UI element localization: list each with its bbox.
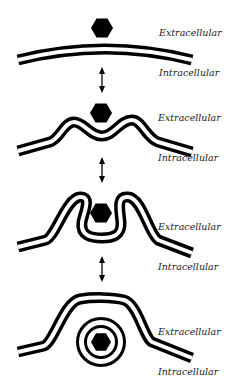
stage-4: Extracellular Intracellular [18, 298, 222, 377]
stage-3: Extracellular Intracellular [18, 197, 222, 272]
cargo-hexagon-icon [90, 104, 112, 123]
cargo-hexagon-icon [90, 204, 112, 223]
intracellular-label: Intracellular [157, 261, 220, 272]
double-headed-arrow-icon [99, 256, 105, 282]
vesicle [78, 319, 125, 366]
cargo-hexagon-icon [91, 333, 111, 350]
extracellular-label: Extracellular [157, 112, 222, 123]
double-headed-arrow-icon [99, 157, 105, 183]
intracellular-label: Intracellular [157, 152, 220, 163]
extracellular-label: Extracellular [157, 221, 222, 232]
endocytosis-diagram: Extracellular Intracellular Extracellula… [0, 0, 232, 389]
intracellular-label: Intracellular [157, 366, 220, 377]
cell-membrane [18, 49, 192, 60]
cell-membrane [18, 120, 192, 152]
stage-2: Extracellular Intracellular [18, 104, 222, 164]
stage-1: Extracellular Intracellular [18, 19, 223, 79]
double-headed-arrow-icon [99, 67, 105, 93]
extracellular-label: Extracellular [157, 326, 222, 337]
extracellular-label: Extracellular [158, 27, 223, 38]
cargo-hexagon-icon [91, 19, 113, 38]
intracellular-label: Intracellular [158, 67, 221, 78]
